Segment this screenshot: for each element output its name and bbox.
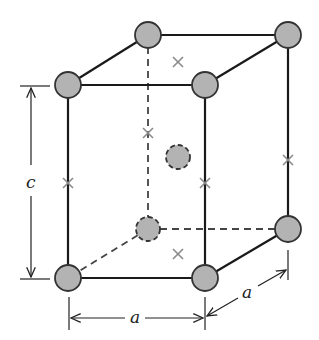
corner-atom-front-top-left — [55, 72, 81, 98]
cross-icon — [173, 249, 183, 259]
corner-atom-back-top-left — [135, 22, 161, 48]
cross-icon — [173, 57, 183, 67]
corner-atom-front-bottom-left — [55, 265, 81, 291]
body-center-atom — [166, 145, 190, 169]
dimension-label-a-depth: a — [242, 282, 252, 302]
dimension-label-a-width: a — [130, 307, 140, 327]
corner-atom-back-top-right — [275, 22, 301, 48]
unit-cell-diagram: c a a — [0, 0, 319, 340]
corner-atom-back-bottom-right — [275, 216, 301, 242]
corner-atom-front-top-right — [192, 72, 218, 98]
corner-atom-back-bottom-left — [136, 217, 160, 241]
dimension-label-c: c — [26, 172, 36, 192]
corner-atom-front-bottom-right — [192, 265, 218, 291]
